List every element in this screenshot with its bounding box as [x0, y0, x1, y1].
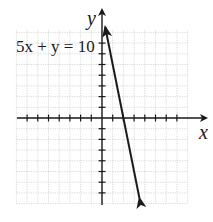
- y-axis-label: y: [87, 8, 96, 28]
- equation-label: 5x + y = 10: [16, 38, 95, 55]
- x-axis-label: x: [199, 122, 208, 142]
- coordinate-plane: [0, 0, 213, 222]
